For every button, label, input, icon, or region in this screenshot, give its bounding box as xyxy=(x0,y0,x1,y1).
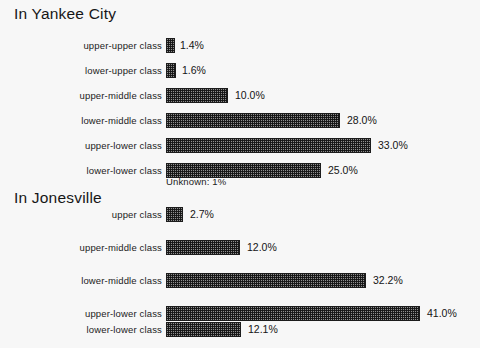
bar xyxy=(166,207,183,222)
bar-value-label: 25.0% xyxy=(328,163,358,178)
unknown-note: Unknown: 1% xyxy=(166,176,226,187)
bar-row-label: upper-middle class xyxy=(80,88,162,103)
bar-value-label: 10.0% xyxy=(235,88,265,103)
bar-row-label: upper-lower class xyxy=(85,138,162,153)
bar xyxy=(166,138,371,153)
bar-row-label: upper-lower class xyxy=(85,306,162,321)
bar-value-label: 28.0% xyxy=(347,113,377,128)
bar-value-label: 1.6% xyxy=(182,63,206,78)
panel-title-yankee-city: In Yankee City xyxy=(14,5,116,23)
bar-value-label: 33.0% xyxy=(378,138,408,153)
bar-row: upper-lower class 33.0% xyxy=(0,138,480,153)
bar-row: upper-upper class 1.4% xyxy=(0,38,480,53)
panel-title-jonesville: In Jonesville xyxy=(14,189,102,207)
bar-value-label: 32.2% xyxy=(373,273,403,288)
bar xyxy=(166,306,420,321)
bar-value-label: 2.7% xyxy=(190,207,214,222)
bar-row: lower-middle class 32.2% xyxy=(0,273,480,288)
bar xyxy=(166,240,240,255)
bar-value-label: 1.4% xyxy=(180,38,204,53)
bar-row: lower-upper class 1.6% xyxy=(0,63,480,78)
bar-row: upper-middle class 12.0% xyxy=(0,240,480,255)
bar-row-label: lower-middle class xyxy=(81,273,162,288)
bar xyxy=(166,63,176,78)
bar-row-label: lower-upper class xyxy=(85,63,162,78)
bar-row-label: upper-upper class xyxy=(83,38,162,53)
bar-row-label: lower-middle class xyxy=(81,113,162,128)
bar xyxy=(166,38,175,53)
bar-row: lower-lower class 12.1% xyxy=(0,322,480,337)
bar-row-label: lower-lower class xyxy=(87,163,162,178)
bar xyxy=(166,273,366,288)
bar-row: upper class 2.7% xyxy=(0,207,480,222)
bar-row: upper-lower class 41.0% xyxy=(0,306,480,321)
bar-row-label: lower-lower class xyxy=(87,322,162,337)
bar xyxy=(166,88,228,103)
bar-value-label: 41.0% xyxy=(427,306,457,321)
bar xyxy=(166,113,340,128)
bar-value-label: 12.1% xyxy=(248,322,278,337)
bar-row: lower-middle class 28.0% xyxy=(0,113,480,128)
chart-container: In Yankee City upper-upper class 1.4% lo… xyxy=(0,0,480,348)
bar-row-label: upper class xyxy=(112,207,162,222)
bar xyxy=(166,322,241,337)
bar-row: upper-middle class 10.0% xyxy=(0,88,480,103)
bar-row: lower-lower class 25.0% xyxy=(0,163,480,178)
bar-value-label: 12.0% xyxy=(247,240,277,255)
bar-row-label: upper-middle class xyxy=(80,240,162,255)
